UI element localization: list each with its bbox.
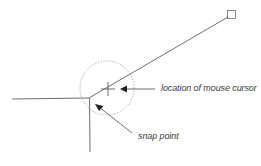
snap-arrow-icon (95, 104, 132, 133)
cursor-arrow-icon (120, 86, 155, 93)
horizontal-line (12, 98, 89, 99)
snap-point-label: snap point (138, 131, 179, 141)
cursor-location-label: location of mouse cursor (161, 83, 257, 93)
endpoint-square-icon (228, 11, 236, 19)
vertical-line (90, 98, 91, 152)
